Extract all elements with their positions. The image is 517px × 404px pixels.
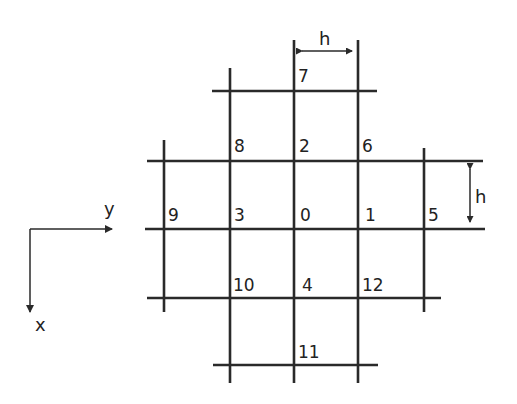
node-label-2: 2	[299, 136, 310, 156]
node-label-4: 4	[302, 275, 313, 295]
node-label-5: 5	[428, 205, 439, 225]
y-axis-label: y	[104, 198, 115, 219]
node-label-0: 0	[300, 205, 311, 225]
node-label-3: 3	[234, 205, 245, 225]
node-label-1: 1	[365, 205, 376, 225]
node-label-12: 12	[362, 275, 384, 295]
x-axis-label: x	[35, 314, 46, 335]
axis-indicator: y x	[30, 198, 115, 335]
node-label-6: 6	[362, 136, 373, 156]
node-label-8: 8	[234, 136, 245, 156]
node-labels: 7 8 2 6 9 3 0 1 5 10 4 12 11	[168, 66, 439, 362]
node-label-11: 11	[298, 342, 320, 362]
vertical-spacing-label: h	[475, 186, 486, 207]
vertical-spacing-dimension: h	[470, 169, 486, 222]
horizontal-spacing-label: h	[319, 28, 330, 49]
node-label-10: 10	[233, 275, 255, 295]
node-label-7: 7	[298, 66, 309, 86]
grid-diagram: h h y x 7 8 2 6 9 3 0 1 5 10 4 12 11	[0, 0, 517, 404]
horizontal-spacing-dimension: h	[302, 28, 352, 51]
node-label-9: 9	[168, 205, 179, 225]
